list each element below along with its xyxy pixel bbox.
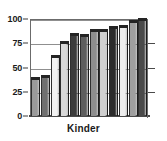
bar: [70, 35, 79, 116]
bar: [51, 57, 60, 116]
bar: [90, 31, 99, 116]
bar: [109, 28, 118, 116]
bar-top-cap: [138, 18, 147, 21]
bar-top-cap: [51, 55, 60, 58]
bar: [60, 43, 69, 116]
bar: [138, 20, 147, 116]
bar-top-cap: [129, 20, 138, 23]
y-tick-label: 50: [12, 63, 22, 72]
bar-face: [52, 57, 59, 116]
y-tick-label: 0: [17, 112, 22, 121]
bar-chart-figure: 0255075100 Kinder: [0, 0, 167, 141]
y-tick-mark: [23, 19, 28, 20]
x-axis-title: Kinder: [0, 123, 167, 134]
bar: [129, 22, 138, 116]
bar-face: [81, 36, 88, 116]
bar-face: [120, 27, 127, 116]
bar-top-cap: [109, 26, 118, 29]
bar-face: [61, 43, 68, 116]
right-axis-ticks: [148, 19, 160, 118]
bar-top-cap: [41, 75, 50, 78]
bar-top-cap: [90, 29, 99, 32]
bar-face: [42, 77, 49, 116]
bar-face: [91, 31, 98, 116]
bar: [41, 77, 50, 116]
bars-layer: [31, 19, 148, 116]
y-tick-mark: [23, 43, 28, 44]
bar-face: [71, 35, 78, 116]
y-axis-tick-labels: 0255075100: [0, 0, 30, 141]
bar: [99, 31, 108, 116]
bar-face: [32, 79, 39, 116]
y-tick-mark: [23, 91, 28, 92]
right-tick-mark: [148, 92, 155, 93]
bar: [80, 36, 89, 116]
y-tick-label: 100: [8, 15, 22, 24]
bar-face: [130, 22, 137, 116]
bar-top-cap: [70, 33, 79, 36]
bar-top-cap: [99, 29, 108, 32]
y-tick-label: 25: [12, 87, 22, 96]
bar-face: [139, 20, 146, 116]
bar-top-cap: [31, 77, 40, 80]
bar-face: [100, 31, 107, 116]
bar-top-cap: [80, 34, 89, 37]
bar-face: [110, 28, 117, 116]
bar: [119, 27, 128, 116]
y-tick-label: 75: [12, 39, 22, 48]
bar-top-cap: [119, 25, 128, 28]
bar: [31, 79, 40, 116]
bar-top-cap: [60, 41, 69, 44]
right-tick-mark: [148, 43, 155, 44]
right-tick-mark: [148, 68, 155, 69]
y-tick-mark: [23, 67, 28, 68]
y-tick-mark: [23, 116, 28, 117]
